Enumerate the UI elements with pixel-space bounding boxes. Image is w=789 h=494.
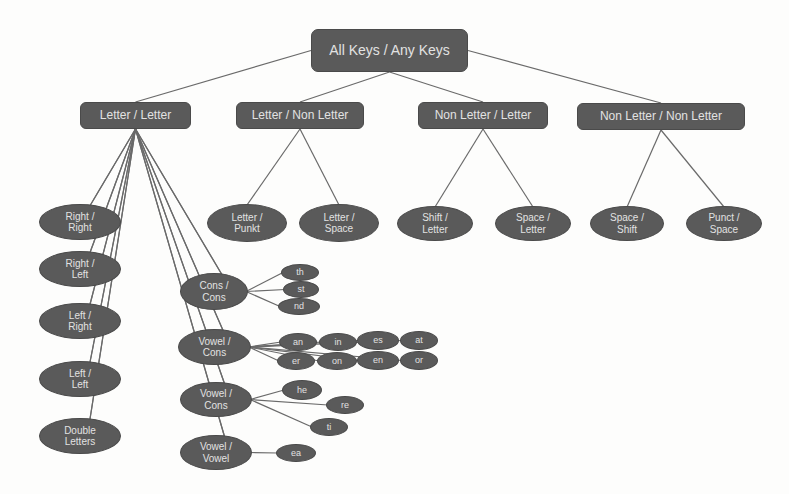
node-left-left: Left / Left [39, 361, 121, 397]
node-he: he [282, 380, 322, 400]
node-at: at [400, 331, 438, 350]
node-cons-cons: Cons / Cons [180, 273, 248, 310]
node-letter-letter: Letter / Letter [80, 102, 191, 129]
node-shift-letter: Shift / Letter [397, 206, 473, 241]
connector-lines [0, 0, 789, 494]
node-er: er [277, 352, 315, 370]
node-letter-space: Letter / Space [299, 204, 379, 242]
node-space-letter: Space / Letter [495, 206, 571, 241]
node-ti: ti [310, 418, 348, 436]
node-letter-non-letter: Letter / Non Letter [236, 102, 364, 129]
node-on: on [317, 352, 357, 370]
node-es: es [357, 331, 399, 350]
diagram-canvas: All Keys / Any Keys Letter / Letter Lett… [0, 0, 789, 494]
node-nd: nd [278, 298, 320, 315]
node-re: re [326, 396, 364, 414]
node-all-keys-any-keys: All Keys / Any Keys [311, 29, 468, 72]
node-en: en [357, 351, 399, 370]
node-right-left: Right / Left [39, 251, 121, 287]
node-or: or [400, 351, 438, 370]
node-th: th [281, 264, 319, 281]
node-vowel-cons-1: Vowel / Cons [178, 329, 251, 365]
node-non-letter-non-letter: Non Letter / Non Letter [577, 103, 745, 130]
node-ea: ea [276, 444, 316, 462]
node-right-right: Right / Right [39, 204, 121, 240]
node-double-letters: Double Letters [39, 418, 121, 454]
node-an: an [279, 333, 317, 351]
node-vowel-vowel: Vowel / Vowel [180, 435, 252, 470]
node-vowel-cons-2: Vowel / Cons [180, 382, 252, 417]
node-letter-punkt: Letter / Punkt [207, 204, 287, 242]
node-space-shift: Space / Shift [590, 206, 664, 241]
node-left-right: Left / Right [39, 303, 121, 339]
node-st: st [283, 281, 319, 298]
node-punct-space: Punct / Space [686, 206, 762, 241]
node-in: in [319, 333, 357, 351]
node-non-letter-letter: Non Letter / Letter [418, 102, 548, 129]
